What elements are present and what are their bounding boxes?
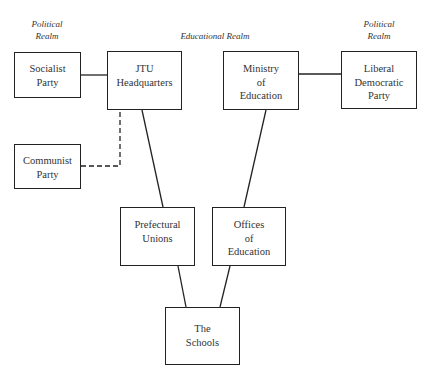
node-socialist-party: Socialist Party <box>14 52 81 98</box>
node-liberal-democratic-party: Liberal Democratic Party <box>341 51 417 109</box>
realm-label-educational: Educational Realm <box>170 30 260 42</box>
node-label: Offices <box>234 218 265 232</box>
realm-label-political-right: Political Realm <box>354 18 404 42</box>
node-offices-of-education: Offices of Education <box>212 207 286 266</box>
node-label: The <box>194 322 210 336</box>
node-label: Liberal <box>364 62 394 76</box>
node-label: Democratic <box>355 76 404 90</box>
realm-line: Political <box>364 19 395 29</box>
node-label: Unions <box>142 232 172 246</box>
node-label: Headquarters <box>117 76 173 90</box>
node-label: Communist <box>23 154 72 168</box>
node-label: Socialist <box>29 62 65 76</box>
node-jtu-headquarters: JTU Headquarters <box>107 51 182 110</box>
node-label: JTU <box>135 62 153 76</box>
realm-label-political-left: Political Realm <box>22 18 72 42</box>
edge-communist-jtu-dashed <box>81 110 120 166</box>
node-label: Education <box>240 89 283 103</box>
node-label: Party <box>36 76 58 90</box>
node-prefectural-unions: Prefectural Unions <box>120 207 195 266</box>
node-ministry-of-education: Ministry of Education <box>223 51 299 110</box>
node-label: Schools <box>186 336 219 350</box>
node-label: of <box>257 76 266 90</box>
node-label: Prefectural <box>134 218 180 232</box>
node-communist-party: Communist Party <box>14 144 81 189</box>
node-label: Education <box>228 245 271 259</box>
node-label: Party <box>368 89 390 103</box>
node-label: Party <box>36 168 58 182</box>
node-the-schools: The Schools <box>165 307 240 365</box>
realm-line: Realm <box>36 31 59 41</box>
edge-ministry-offices <box>244 110 266 207</box>
edge-offices-schools <box>220 266 230 307</box>
realm-line: Political <box>32 19 63 29</box>
node-label: of <box>245 232 254 246</box>
realm-line: Realm <box>368 31 391 41</box>
edge-jtu-prefectural <box>142 110 163 207</box>
node-label: Ministry <box>243 62 279 76</box>
edge-prefectural-schools <box>178 266 186 307</box>
